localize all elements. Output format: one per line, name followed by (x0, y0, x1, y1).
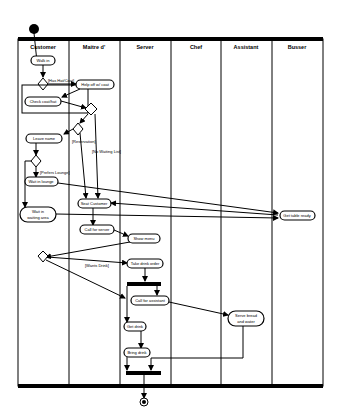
svg-text:Help off w/ coat: Help off w/ coat (81, 82, 109, 87)
guard-prefers-lounge: [Prefers Lounge] (40, 170, 70, 175)
svg-text:Get drink: Get drink (127, 324, 143, 329)
activity-call-server: Call for server (80, 225, 114, 234)
lane-maitre-d: Maitre d' (83, 44, 106, 50)
activity-walk-in: Walk in (31, 56, 55, 65)
svg-text:Wait in: Wait in (32, 209, 44, 214)
svg-text:Call for server: Call for server (85, 227, 111, 232)
guard-has-hat: [Has Hat/Coat] (48, 78, 74, 83)
decision-hat (38, 78, 48, 90)
activity-diagram: Customer Maitre d' Server Chef Assistant… (0, 0, 341, 420)
lane-customer: Customer (30, 44, 57, 50)
svg-text:Seat Customer: Seat Customer (81, 201, 108, 206)
svg-text:and water: and water (237, 319, 255, 324)
activity-show-menu: Show menu (128, 234, 160, 243)
activity-seat-customer: Seat Customer (78, 199, 111, 208)
svg-text:Call for assistant: Call for assistant (135, 298, 165, 303)
activity-get-table-ready: Get table ready (280, 211, 315, 220)
lane-busser: Busser (288, 44, 308, 50)
activity-serve-bread: Serve bread and water (228, 311, 264, 326)
initial-node (29, 24, 39, 34)
activity-take-drink: Take drink order (127, 259, 163, 268)
svg-text:Serve bread: Serve bread (235, 313, 257, 318)
lane-chef: Chef (190, 44, 202, 50)
guard-wants-drink: [Wants Drink] (85, 263, 109, 268)
lane-server: Server (136, 44, 154, 50)
guard-no-waiting: [No Waiting List] (92, 149, 121, 154)
svg-text:Wait in lounge: Wait in lounge (28, 179, 54, 184)
fork-bar (127, 282, 161, 286)
activity-call-assistant: Call for assistant (131, 296, 169, 305)
activity-wait-area: Wait in waiting area (20, 207, 56, 222)
svg-text:Show menu: Show menu (133, 236, 154, 241)
activity-check-coat: Check coat/hat (25, 97, 61, 106)
svg-text:waiting area: waiting area (27, 215, 49, 220)
svg-text:Get table ready: Get table ready (283, 213, 310, 218)
svg-text:Check coat/hat: Check coat/hat (30, 99, 58, 104)
svg-text:Take drink order: Take drink order (131, 261, 160, 266)
activity-leave-name: Leave name (26, 134, 62, 143)
svg-text:Walk in: Walk in (37, 58, 50, 63)
svg-text:Leave name: Leave name (33, 136, 56, 141)
decision-reservation (73, 123, 83, 135)
activity-help-coat: Help off w/ coat (76, 80, 114, 89)
join-bar (126, 371, 161, 375)
activity-bring-drink: Bring drink (124, 348, 150, 357)
activity-get-drink: Get drink (124, 322, 146, 331)
activity-wait-lounge: Wait in lounge (25, 177, 58, 186)
lane-assistant: Assistant (234, 44, 259, 50)
svg-text:Bring drink: Bring drink (127, 350, 146, 355)
guard-reservation: [Reservation] (72, 139, 96, 144)
decision-lounge (31, 155, 41, 167)
